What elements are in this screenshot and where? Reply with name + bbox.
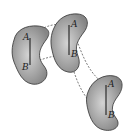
label-b-right: B xyxy=(107,110,115,120)
label-a-middle: A xyxy=(70,19,78,29)
label-b-left: B xyxy=(21,62,29,72)
label-b-middle: B xyxy=(70,49,78,59)
body-middle: A B xyxy=(51,14,87,72)
body-left: A B xyxy=(12,26,49,84)
translation-diagram: A B A B A B xyxy=(0,0,133,139)
body-right: A B xyxy=(87,76,123,131)
label-a-left: A xyxy=(22,32,30,42)
label-a-right: A xyxy=(107,79,115,89)
